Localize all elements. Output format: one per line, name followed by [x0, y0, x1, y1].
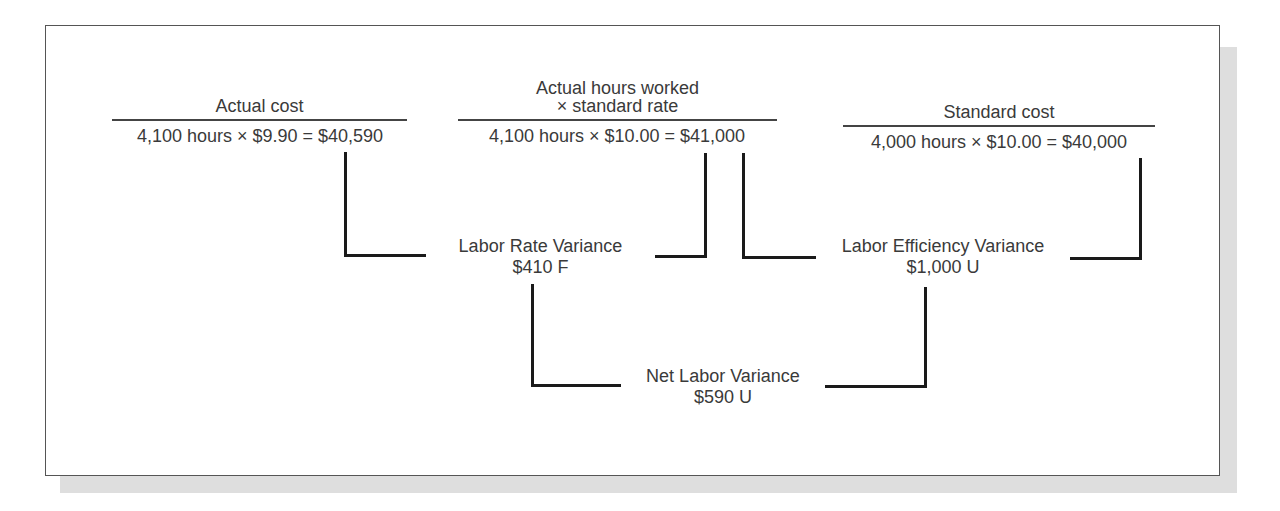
- actual-hours-formula: 4,100 hours × $10.00 = $41,000: [452, 126, 782, 146]
- labor-efficiency-variance-label: Labor Efficiency Variance: [816, 236, 1070, 256]
- net-labor-variance-label: Net Labor Variance: [621, 366, 825, 386]
- standard-cost-rule: [843, 125, 1155, 127]
- actual-cost-rule: [112, 119, 407, 121]
- net-connector-left-horizontal: [531, 384, 621, 387]
- rate-connector-left-horizontal: [344, 254, 426, 257]
- standard-cost-header: Standard cost: [843, 102, 1155, 122]
- rate-connector-right-horizontal: [655, 255, 707, 258]
- labor-rate-variance-label: Labor Rate Variance: [426, 236, 655, 256]
- actual-cost-header: Actual cost: [112, 96, 407, 116]
- efficiency-connector-left-vertical: [742, 153, 745, 259]
- net-connector-right-vertical: [924, 287, 927, 388]
- net-connector-right-horizontal: [825, 385, 927, 388]
- net-labor-variance-value: $590 U: [621, 387, 825, 407]
- actual-cost-formula: 4,100 hours × $9.90 = $40,590: [105, 126, 415, 146]
- rate-connector-left-vertical: [344, 152, 347, 257]
- standard-cost-formula: 4,000 hours × $10.00 = $40,000: [838, 132, 1160, 152]
- efficiency-connector-right-vertical: [1139, 158, 1142, 260]
- net-connector-left-vertical: [531, 284, 534, 387]
- efficiency-connector-left-horizontal: [742, 256, 816, 259]
- actual-hours-header-line1: Actual hours worked: [458, 78, 777, 98]
- rate-connector-right-vertical: [704, 153, 707, 257]
- efficiency-connector-right-horizontal: [1070, 257, 1142, 260]
- labor-efficiency-variance-value: $1,000 U: [816, 257, 1070, 277]
- actual-hours-rule: [458, 119, 777, 121]
- labor-rate-variance-value: $410 F: [426, 257, 655, 277]
- actual-hours-header-line2: × standard rate: [458, 96, 777, 116]
